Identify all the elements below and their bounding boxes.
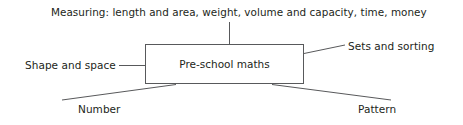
connector-number [62, 85, 176, 101]
branch-label-sets-and-sorting: Sets and sorting [348, 40, 435, 53]
central-node-label: Pre-school maths [179, 58, 269, 70]
connector-pattern [272, 85, 391, 101]
branch-label-number: Number [78, 103, 120, 116]
branch-label-measuring: Measuring: length and area, weight, volu… [51, 6, 427, 19]
connector-sets-and-sorting [304, 45, 345, 54]
branch-label-pattern: Pattern [358, 103, 396, 116]
branch-label-shape-and-space: Shape and space [25, 59, 116, 72]
concept-diagram: Measuring: length and area, weight, volu… [0, 0, 463, 125]
central-node: Pre-school maths [145, 44, 304, 84]
